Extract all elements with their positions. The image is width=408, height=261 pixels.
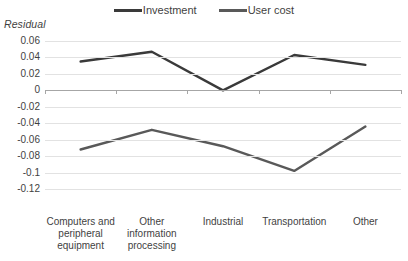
y-axis-tick-labels: 0.060.040.020-0.02-0.04-0.06-0.08-0.1-0.… [0, 41, 40, 189]
x-axis-category-labels: Computers and peripheral equipmentOther … [45, 216, 401, 261]
legend-line-swatch-icon [114, 9, 142, 12]
zero-axis-line [45, 90, 401, 91]
x-axis-tickmark [401, 90, 402, 94]
x-axis-tickmark [259, 90, 260, 94]
y-tick-label: -0.04 [0, 118, 40, 128]
legend-entry[interactable]: User cost [219, 4, 294, 16]
x-category-label: Industrial [187, 216, 258, 261]
chart-legend: InvestmentUser cost [0, 2, 408, 18]
gridline [45, 123, 401, 124]
legend-entry[interactable]: Investment [114, 4, 197, 16]
plot-area [45, 41, 401, 189]
y-tick-label: 0 [0, 85, 40, 95]
residual-line-chart: InvestmentUser cost Residual 0.060.040.0… [0, 0, 408, 261]
series-line-user-cost [81, 127, 366, 171]
gridline [45, 189, 401, 190]
legend-label: User cost [248, 4, 294, 16]
x-axis-tickmark [330, 90, 331, 94]
y-axis-title: Residual [4, 18, 46, 30]
gridline [45, 107, 401, 108]
y-tick-label: -0.1 [0, 168, 40, 178]
gridline [45, 41, 401, 42]
y-tick-label: 0.02 [0, 69, 40, 79]
gridline [45, 173, 401, 174]
series-layer [45, 41, 401, 189]
x-category-label: Other information processing [116, 216, 187, 261]
gridline [45, 140, 401, 141]
x-category-label: Transportation [259, 216, 330, 261]
gridline [45, 57, 401, 58]
y-tick-label: 0.04 [0, 52, 40, 62]
y-tick-label: -0.12 [0, 184, 40, 194]
y-tick-label: -0.06 [0, 135, 40, 145]
y-tick-label: 0.06 [0, 36, 40, 46]
x-axis-tickmark [116, 90, 117, 94]
x-axis-tickmark [187, 90, 188, 94]
y-tick-label: -0.02 [0, 102, 40, 112]
y-tick-label: -0.08 [0, 151, 40, 161]
gridline [45, 156, 401, 157]
legend-label: Investment [143, 4, 197, 16]
x-axis-tickmark [45, 90, 46, 94]
gridline [45, 74, 401, 75]
x-category-label: Computers and peripheral equipment [45, 216, 116, 261]
legend-line-swatch-icon [219, 9, 247, 12]
x-category-label: Other [330, 216, 401, 261]
